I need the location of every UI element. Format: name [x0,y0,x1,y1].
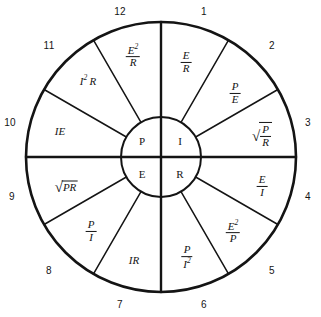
sector-divider-line [44,177,126,225]
sector-divider-line [196,177,278,225]
sector-divider-line [44,90,126,138]
ohms-law-wheel-figure: 123456789101112PIERERPE√PREIE2PPI2IRPI√P… [0,0,321,317]
sector-divider-line [94,192,142,274]
wheel-diagram-canvas [0,0,321,317]
sector-divider-line [181,40,229,122]
wheel-geometry [26,22,296,292]
sector-divider-line [181,192,229,274]
sector-divider-line [196,90,278,138]
sector-divider-line [94,40,142,122]
